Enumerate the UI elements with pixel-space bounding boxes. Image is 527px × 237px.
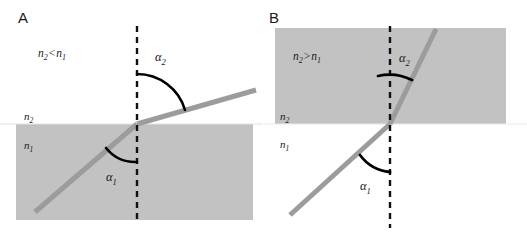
- panel-b-n2-sub: 2: [286, 116, 290, 125]
- panel-a: A n2<n1 n2 n1: [0, 0, 263, 237]
- panel-b-alpha2-sub: 2: [406, 58, 410, 68]
- panel-a-lower-medium-label: n1: [24, 140, 33, 154]
- panel-a-relation-operator: <: [48, 47, 57, 59]
- panel-a-upper-medium: [16, 28, 253, 124]
- panel-a-alpha1-sub: 1: [113, 177, 117, 187]
- panel-a-lower-medium: [16, 124, 253, 220]
- panel-b: B n2>n1 n2 n1: [264, 0, 527, 237]
- panel-b-n1-sub: 1: [286, 144, 290, 153]
- panel-a-relation-n-right-sub: 1: [62, 53, 66, 62]
- panel-b-relation-operator: >: [303, 50, 312, 62]
- panel-b-alpha1-sub: 1: [367, 186, 371, 196]
- panel-b-alpha2-label: α2: [399, 52, 410, 67]
- panel-b-relation-n-right-sub: 1: [317, 56, 321, 65]
- refraction-figure: A n2<n1 n2 n1: [0, 0, 527, 237]
- panel-b-diagram: [264, 0, 527, 237]
- panel-a-alpha2-label: α2: [155, 51, 166, 66]
- panel-a-alpha1-label: α1: [106, 171, 117, 186]
- panel-a-diagram: [0, 0, 263, 237]
- panel-a-n2-sub: 2: [30, 116, 34, 125]
- panel-a-n1-sub: 1: [30, 145, 34, 154]
- panel-a-relation-label: n2<n1: [38, 48, 66, 62]
- panel-b-alpha1-label: α1: [360, 180, 371, 195]
- panel-b-relation-label: n2>n1: [293, 51, 321, 65]
- panel-b-upper-medium-label: n2: [280, 111, 289, 125]
- panel-a-alpha2-sub: 2: [162, 57, 166, 67]
- panel-b-lower-medium-label: n1: [280, 139, 289, 153]
- panel-a-upper-medium-label: n2: [24, 111, 33, 125]
